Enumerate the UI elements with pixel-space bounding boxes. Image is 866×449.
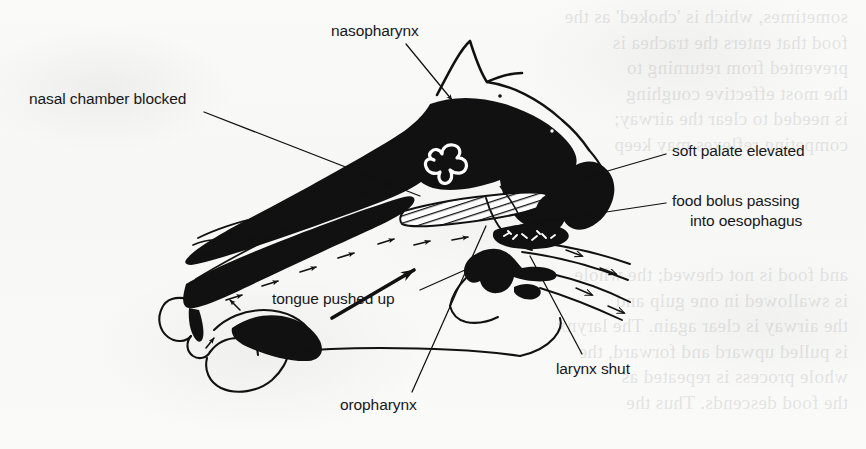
leader-larynx-shut bbox=[530, 256, 582, 354]
leader-oropharynx bbox=[412, 226, 486, 392]
palate-flow-arrow bbox=[452, 237, 468, 240]
neck-ventral-outline bbox=[520, 318, 561, 356]
chin-outline bbox=[206, 352, 288, 392]
oesophagus-flow-arrow bbox=[566, 250, 582, 256]
oral-flow-arrow bbox=[338, 253, 354, 258]
larynx-group bbox=[450, 249, 557, 323]
epiglottis-solid bbox=[514, 284, 541, 300]
leader-nasopharynx bbox=[406, 44, 452, 100]
label-nasal-chamber-blocked: nasal chamber blocked bbox=[29, 90, 186, 108]
mouth-flow-arrow bbox=[230, 300, 240, 310]
trachea-upper-wall bbox=[552, 274, 630, 302]
figure-canvas: sometimes, which is 'choked' as the food… bbox=[0, 0, 866, 449]
oral-flow-arrow bbox=[262, 281, 278, 286]
palate-flow-arrow bbox=[414, 241, 430, 245]
label-oropharynx: oropharynx bbox=[340, 396, 417, 414]
larynx-lower-outline bbox=[450, 306, 498, 323]
trachea-flow-arrow bbox=[608, 306, 624, 313]
oral-flow-arrow bbox=[226, 295, 242, 300]
tongue-solid bbox=[232, 315, 322, 361]
label-nasopharynx: nasopharynx bbox=[331, 22, 419, 40]
oral-flow-arrow bbox=[378, 239, 394, 244]
ink-speck bbox=[550, 129, 553, 132]
throat-floor-outline bbox=[288, 348, 520, 356]
mouth-flow-arrow bbox=[206, 338, 214, 348]
trachea-flow-arrow bbox=[576, 288, 592, 295]
ink-speck bbox=[498, 94, 502, 98]
label-soft-palate-elevated: soft palate elevated bbox=[672, 142, 804, 160]
label-food-bolus-passing: food bolus passing bbox=[672, 192, 799, 210]
label-tongue-pushed-up: tongue pushed up bbox=[272, 290, 395, 308]
label-into-oesophagus: into oesophagus bbox=[690, 212, 802, 230]
oral-flow-arrow bbox=[300, 267, 316, 272]
tongue-group bbox=[214, 310, 561, 361]
label-larynx-shut: larynx shut bbox=[556, 360, 630, 378]
